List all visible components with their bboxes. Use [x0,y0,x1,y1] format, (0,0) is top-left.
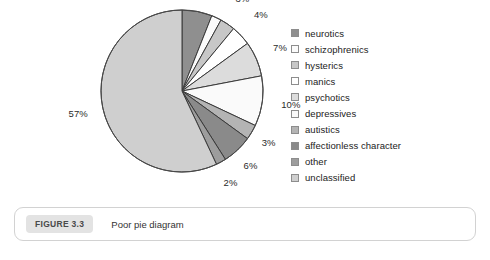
legend-swatch-icon [291,158,299,166]
legend-item[interactable]: neurotics [291,25,451,41]
legend-item-label: schizophrenics [305,44,369,55]
legend-item[interactable]: affectionless character [291,138,451,154]
pie-slice-percent-label: 7% [273,42,287,53]
legend-swatch-icon [291,93,299,101]
legend-item[interactable]: manics [291,73,451,89]
legend-swatch-icon [291,29,299,37]
figure-caption-bar: FIGURE 3.3 Poor pie diagram [14,207,476,241]
legend-item-label: psychotics [305,92,350,103]
legend-swatch-icon [291,126,299,134]
legend-item-label: manics [305,76,335,87]
legend-swatch-icon [291,174,299,182]
legend-item[interactable]: other [291,154,451,170]
pie-slice-percent-label: 6% [244,160,258,171]
legend-item-label: hysterics [305,60,343,71]
pie-slice-percent-label: 3% [235,0,249,4]
figure-number-badge: FIGURE 3.3 [26,215,93,233]
legend-item-label: other [305,156,327,167]
legend-item[interactable]: depressives [291,105,451,121]
pie-slice-percent-label: 2% [224,177,238,188]
pie-slice-percent-label: 3% [262,137,276,148]
pie-slice-percent-label: 57% [69,108,88,119]
chart-legend: neuroticsschizophrenicshystericsmanicsps… [291,25,451,186]
legend-item-label: neurotics [305,28,344,39]
legend-item-label: unclassified [305,172,355,183]
legend-item[interactable]: autistics [291,122,451,138]
figure-container: 6%2%3%4%7%10%3%6%2%57% neuroticsschizoph… [0,0,490,260]
legend-swatch-icon [291,142,299,150]
legend-item-label: depressives [305,108,356,119]
legend-item[interactable]: schizophrenics [291,41,451,57]
figure-caption-text: Poor pie diagram [111,219,183,230]
legend-swatch-icon [291,110,299,118]
legend-swatch-icon [291,45,299,53]
legend-item[interactable]: hysterics [291,57,451,73]
legend-item[interactable]: unclassified [291,170,451,186]
pie-slice-percent-label: 4% [254,9,268,20]
legend-item[interactable]: psychotics [291,89,451,105]
legend-item-label: affectionless character [305,140,401,151]
legend-swatch-icon [291,61,299,69]
legend-item-label: autistics [305,124,340,135]
legend-swatch-icon [291,77,299,85]
